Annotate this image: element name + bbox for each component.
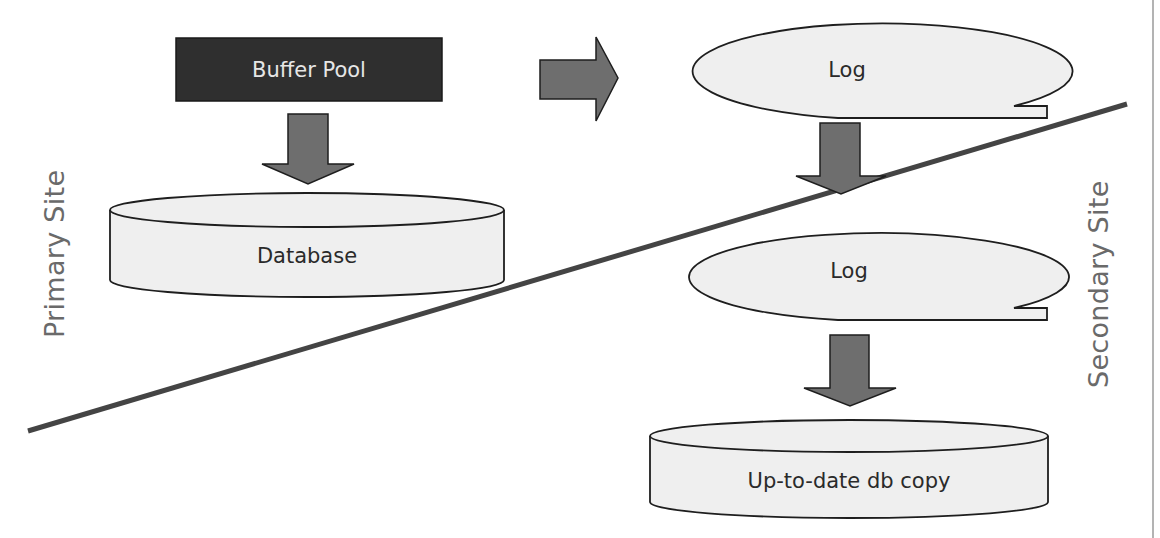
db-copy-label: Up-to-date db copy [748, 469, 951, 493]
database-cylinder: Database [110, 193, 504, 297]
arrow-down-icon [262, 114, 354, 184]
primary-log-label: Log [828, 58, 866, 82]
arrow-down-icon [804, 335, 896, 406]
database-label: Database [257, 244, 357, 268]
primary-site-label: Primary Site [39, 170, 70, 338]
secondary-log-label: Log [830, 259, 868, 283]
secondary-site-label: Secondary Site [1083, 180, 1114, 388]
buffer-pool-label: Buffer Pool [252, 58, 366, 82]
arrow-down-icon [796, 123, 886, 194]
db-copy-cylinder: Up-to-date db copy [650, 420, 1048, 518]
arrow-right-icon [540, 37, 618, 121]
secondary-log-shape: Log [689, 233, 1069, 320]
primary-log-shape: Log [693, 23, 1073, 118]
log-shipping-diagram: Buffer Pool Database Log Log Up-to-date … [0, 0, 1160, 538]
buffer-pool-box: Buffer Pool [176, 38, 442, 101]
